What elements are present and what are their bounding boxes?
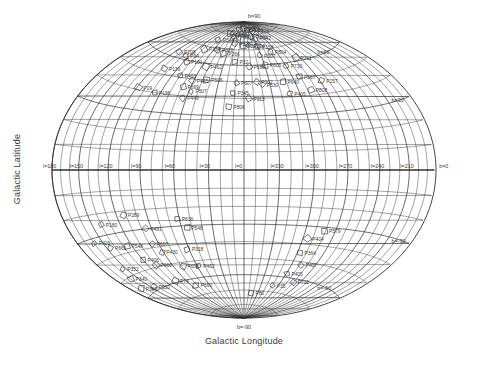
source-marker-outline: [234, 80, 240, 86]
source-marker[interactable]: P445: [188, 77, 208, 84]
source-marker-label: P711: [298, 280, 309, 285]
source-marker[interactable]: P318: [184, 246, 204, 253]
source-marker-label: P405: [294, 92, 306, 97]
source-marker-label: P158: [262, 45, 274, 50]
source-marker-label: P139: [169, 67, 181, 72]
source-marker-label: P808: [316, 88, 328, 93]
source-marker[interactable]: P403: [178, 73, 197, 79]
source-marker[interactable]: P491: [142, 225, 162, 232]
all-sky-map-figure: l=180l=150l=120l=90l=60l=30l=0l=330l=300…: [0, 0, 488, 366]
source-marker[interactable]: P640: [280, 79, 299, 85]
source-marker-outline: [297, 250, 302, 256]
parallel-b--10: [55, 188, 432, 195]
source-marker[interactable]: P364: [297, 250, 316, 256]
source-marker[interactable]: P345: [230, 91, 249, 97]
source-marker-label: P340: [136, 277, 148, 282]
source-marker[interactable]: P32: [232, 59, 248, 65]
source-marker-label: P579: [329, 229, 341, 234]
source-marker-outline: [232, 59, 237, 64]
y-tick-label--30: b=-30: [392, 238, 406, 244]
source-marker[interactable]: P289: [120, 212, 140, 219]
source-marker-label: P660: [201, 283, 213, 288]
source-marker-label: P640: [288, 80, 300, 85]
source-marker-outline: [98, 221, 104, 227]
y-tick-label-90: b=90: [248, 13, 260, 19]
source-marker[interactable]: P257: [318, 77, 338, 84]
source-marker-label: P266: [228, 52, 240, 57]
source-marker-label: P506: [211, 78, 223, 83]
source-marker-label: P430: [166, 250, 178, 255]
source-marker-label: P289: [128, 213, 140, 218]
source-marker-outline: [298, 262, 304, 269]
y-tick-label--90: b=-90: [237, 324, 251, 330]
source-marker-label: P74: [180, 279, 189, 284]
source-marker-label: P656: [187, 264, 199, 269]
x-tick-label-150: l=150: [70, 163, 83, 169]
source-marker[interactable]: P101: [184, 58, 203, 65]
x-tick-label-270: l=270: [339, 163, 352, 169]
source-marker[interactable]: P211: [292, 53, 312, 61]
source-marker[interactable]: P80: [248, 291, 264, 297]
source-marker-label: P376: [258, 29, 270, 34]
source-marker-label: P180: [106, 223, 118, 228]
source-marker[interactable]: P636: [175, 216, 194, 222]
source-marker-label: P211: [301, 56, 312, 61]
source-marker[interactable]: P74: [172, 277, 190, 285]
source-marker-label: P19: [143, 86, 152, 91]
source-marker-label: P101: [191, 60, 203, 65]
x-tick-label-120: l=120: [99, 163, 112, 169]
source-marker-label: P462: [203, 264, 215, 269]
source-marker[interactable]: P404: [303, 234, 324, 242]
source-marker-outline: [176, 49, 183, 56]
source-marker-label: P449: [187, 96, 199, 101]
source-marker-label: P80: [255, 291, 264, 296]
source-marker-label: P342: [260, 36, 272, 41]
x-tick-label-330: l=330: [270, 163, 283, 169]
source-marker-label: P913: [253, 97, 265, 102]
source-marker-label: P548: [132, 244, 144, 249]
y-tick-label--60: b=-60: [317, 285, 331, 291]
source-marker[interactable]: P340: [127, 275, 147, 282]
source-marker[interactable]: P352: [120, 266, 139, 272]
source-marker[interactable]: P808: [308, 86, 328, 93]
source-marker[interactable]: P462: [196, 263, 215, 269]
x-tick-label-240: l=240: [371, 163, 384, 169]
source-marker-label: P730: [291, 64, 303, 69]
source-marker-outline: [120, 212, 127, 219]
source-marker-outline: [318, 77, 325, 83]
x-tick-label-30: l=30: [200, 163, 210, 169]
source-marker-label: P507: [195, 89, 207, 94]
source-marker-label: P567: [304, 75, 316, 80]
source-marker-label: P407: [305, 263, 317, 268]
source-marker[interactable]: P806: [226, 104, 245, 110]
x-tick-label-180: l=180: [43, 163, 56, 169]
source-marker[interactable]: P607: [234, 80, 253, 87]
x-tick-label-300: l=300: [305, 163, 318, 169]
x-tick-label-60: l=60: [165, 163, 175, 169]
y-tick-label-0: b=0: [439, 163, 448, 169]
source-marker-outline: [254, 78, 260, 85]
parallel-b-10: [55, 144, 432, 151]
source-marker-label: P806: [233, 105, 245, 110]
source-marker-label: P636: [182, 217, 194, 222]
source-marker[interactable]: P462: [202, 63, 222, 71]
source-marker-outline: [226, 104, 232, 110]
source-marker[interactable]: P139: [161, 65, 180, 72]
source-marker-label: P660: [161, 263, 173, 268]
source-marker[interactable]: P405: [284, 271, 303, 277]
x-tick-label-210: l=210: [400, 163, 413, 169]
source-marker[interactable]: P19: [134, 83, 152, 90]
source-marker-label: P32: [240, 60, 249, 65]
source-marker-label: P462: [211, 65, 223, 70]
source-marker-label: P404: [312, 237, 324, 242]
source-marker-label: P491: [150, 227, 162, 232]
source-marker-label: P35: [277, 284, 286, 289]
source-marker-outline: [308, 86, 315, 93]
source-marker-label: P364: [305, 251, 317, 256]
y-tick-label-60: b=60: [317, 49, 329, 55]
source-marker-label: P136: [159, 91, 171, 96]
sky-projection-plot: l=180l=150l=120l=90l=60l=30l=0l=330l=300…: [0, 0, 488, 366]
source-marker-label: P403: [185, 74, 197, 79]
source-marker[interactable]: P548: [124, 242, 143, 249]
source-marker-label: P804: [275, 50, 287, 55]
